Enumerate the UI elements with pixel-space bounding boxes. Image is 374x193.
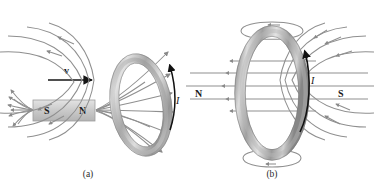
- current-label-b: I: [310, 75, 315, 86]
- current-label-a: I: [175, 95, 180, 106]
- figure-container: S N v I: [0, 0, 374, 193]
- figure-background: [0, 0, 374, 193]
- panel-a-caption: (a): [83, 169, 94, 180]
- north-label-b: N: [195, 88, 203, 99]
- south-label-b: S: [338, 88, 344, 99]
- panel-b-caption: (b): [266, 169, 277, 180]
- bar-magnet: S N: [33, 100, 95, 121]
- magnet-north-label: N: [79, 105, 87, 116]
- physics-diagram-svg: S N v I: [0, 0, 374, 193]
